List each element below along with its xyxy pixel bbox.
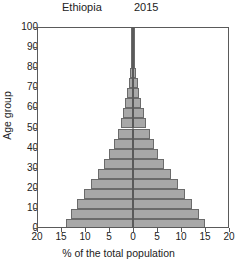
bar-male — [84, 189, 133, 199]
x-tick-label: 20 — [214, 231, 237, 242]
bar-male — [118, 129, 133, 139]
x-tick-mark — [157, 228, 158, 232]
x-tick-mark — [85, 228, 86, 232]
bar-male — [114, 139, 133, 149]
bar-female — [133, 169, 171, 179]
x-tick-mark — [37, 228, 38, 232]
chart-header: Ethiopia 2015 — [0, 0, 237, 16]
bar-female — [133, 98, 141, 108]
chart-year: 2015 — [134, 1, 158, 14]
bar-female — [133, 159, 164, 169]
x-tick-mark — [61, 228, 62, 232]
bar-male — [77, 199, 133, 209]
bar-female — [133, 199, 192, 209]
x-axis-label: % of the total population — [0, 247, 237, 259]
bar-male — [98, 169, 133, 179]
bar-female — [133, 179, 178, 189]
bar-female — [133, 189, 185, 199]
page-title: Ethiopia — [62, 1, 102, 14]
bar-female — [133, 88, 139, 98]
bar-female — [133, 108, 144, 118]
y-axis-label: Age group — [2, 81, 13, 151]
x-tick-mark — [205, 228, 206, 232]
bar-male — [109, 149, 133, 159]
bar-male — [121, 118, 133, 128]
zero-axis-line — [133, 28, 134, 227]
bar-female — [133, 149, 158, 159]
bar-female — [133, 129, 150, 139]
bar-male — [71, 209, 133, 219]
x-tick-mark — [229, 228, 230, 232]
bar-female — [133, 219, 205, 228]
bar-female — [133, 78, 138, 88]
bar-female — [133, 209, 199, 219]
x-tick-mark — [181, 228, 182, 232]
bar-female — [133, 118, 146, 128]
plot-area — [37, 27, 229, 228]
bar-male — [66, 219, 133, 228]
x-tick-mark — [133, 228, 134, 232]
x-tick-mark — [109, 228, 110, 232]
bar-male — [91, 179, 133, 189]
bar-male — [104, 159, 133, 169]
bar-female — [133, 139, 154, 149]
